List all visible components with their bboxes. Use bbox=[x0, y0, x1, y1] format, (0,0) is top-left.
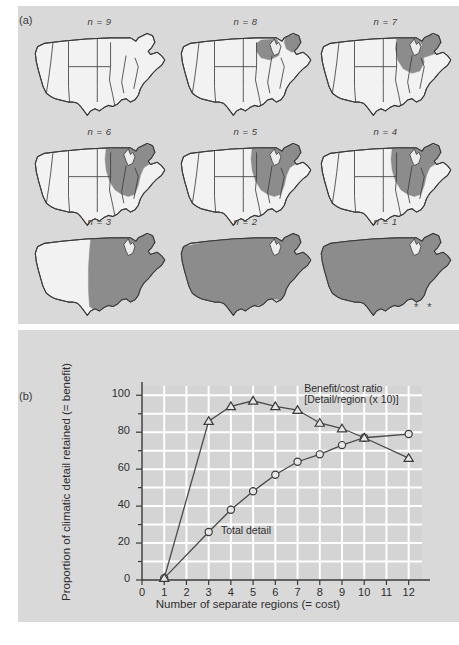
data-point bbox=[227, 506, 234, 513]
us-map-graphic bbox=[312, 229, 459, 322]
data-point bbox=[205, 528, 212, 535]
us-map-graphic bbox=[172, 29, 319, 122]
map-caption: n = 3 bbox=[26, 216, 173, 227]
map-caption: n = 5 bbox=[172, 126, 319, 137]
map-caption: n = 2 bbox=[172, 216, 319, 227]
chart-annotation: Total detail bbox=[221, 524, 271, 536]
us-map-graphic bbox=[172, 229, 319, 322]
data-point bbox=[250, 488, 257, 495]
shaded-region bbox=[181, 233, 309, 315]
asterisk-footnote-marker: * * bbox=[414, 301, 435, 313]
data-point bbox=[294, 458, 301, 465]
plot-background bbox=[142, 386, 422, 580]
map-panel-2: n = 2 bbox=[172, 216, 319, 322]
us-map-graphic bbox=[26, 229, 173, 322]
map-caption: n = 7 bbox=[312, 16, 459, 27]
chart-annotation: [Detail/region (x 10)] bbox=[304, 393, 399, 405]
map-caption: n = 4 bbox=[312, 126, 459, 137]
benefit-cost-chart: Proportion of climatic detail retained (… bbox=[18, 330, 459, 622]
data-point bbox=[316, 451, 323, 458]
map-panel-3: n = 3 bbox=[26, 216, 173, 322]
us-map-graphic bbox=[26, 29, 173, 122]
data-point bbox=[405, 430, 412, 437]
map-panel-9: n = 9 bbox=[26, 16, 173, 122]
map-caption: n = 9 bbox=[26, 16, 173, 27]
map-panel-1: n = 1 bbox=[312, 216, 459, 322]
map-panel-8: n = 8 bbox=[172, 16, 319, 122]
plot-area bbox=[18, 330, 459, 622]
map-caption: n = 1 bbox=[312, 216, 459, 227]
us-map-graphic bbox=[312, 29, 459, 122]
map-caption: n = 8 bbox=[172, 16, 319, 27]
data-point bbox=[272, 471, 279, 478]
map-caption: n = 6 bbox=[26, 126, 173, 137]
data-point bbox=[338, 442, 345, 449]
map-panel-7: n = 7 bbox=[312, 16, 459, 122]
